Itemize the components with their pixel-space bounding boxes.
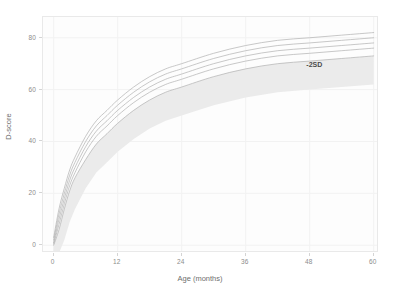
x-tick-mark bbox=[245, 253, 246, 256]
x-tick-label: 0 bbox=[51, 258, 55, 265]
x-tick-mark bbox=[53, 253, 54, 256]
x-tick-mark bbox=[373, 253, 374, 256]
d-score-reference-chart: -2SD 020406080 01224364860 Age (months) … bbox=[0, 0, 400, 298]
y-axis-title: D-score bbox=[4, 97, 13, 157]
x-tick-label: 48 bbox=[305, 258, 312, 265]
x-tick-mark bbox=[117, 253, 118, 256]
x-tick-mark bbox=[309, 253, 310, 256]
reference-bands bbox=[54, 56, 374, 252]
y-tick-label: 60 bbox=[18, 85, 36, 92]
y-tick-mark bbox=[39, 89, 42, 90]
reference-band-below-minus-2sd-band bbox=[54, 56, 374, 252]
x-axis-title: Age (months) bbox=[0, 274, 400, 283]
y-tick-mark bbox=[39, 140, 42, 141]
annotation-2sd: -2SD bbox=[306, 61, 322, 68]
y-tick-label: 40 bbox=[18, 137, 36, 144]
x-tick-mark bbox=[181, 253, 182, 256]
y-tick-mark bbox=[39, 37, 42, 38]
y-tick-label: 0 bbox=[18, 241, 36, 248]
plot-panel: -2SD bbox=[42, 16, 378, 252]
plot-svg bbox=[43, 17, 378, 252]
y-tick-label: 20 bbox=[18, 189, 36, 196]
y-tick-label: 80 bbox=[18, 33, 36, 40]
x-tick-label: 12 bbox=[113, 258, 120, 265]
y-tick-mark bbox=[39, 244, 42, 245]
x-tick-label: 24 bbox=[177, 258, 184, 265]
x-tick-label: 36 bbox=[241, 258, 248, 265]
x-tick-label: 60 bbox=[369, 258, 376, 265]
y-tick-mark bbox=[39, 192, 42, 193]
